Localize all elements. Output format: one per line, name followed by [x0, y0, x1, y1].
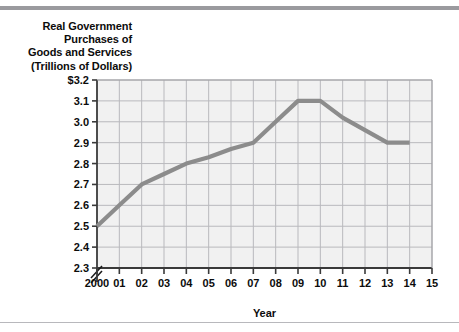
plot-area [97, 80, 432, 268]
y-axis-tick-label: 3.0 [33, 116, 89, 128]
y-axis-tick-label: $3.2 [33, 74, 89, 86]
bottom-divider [0, 322, 459, 323]
y-axis-tick-label: 2.4 [33, 241, 89, 253]
x-axis-title: Year [97, 307, 432, 319]
line-chart: $3.23.13.02.92.82.72.62.52.42.3 20000102… [0, 0, 459, 332]
y-axis-tick-label: 2.3 [33, 262, 89, 274]
y-axis-tick-label: 3.1 [33, 95, 89, 107]
x-axis-tick-label: 15 [412, 277, 452, 289]
y-axis-tick-label: 2.9 [33, 137, 89, 149]
y-axis-tick-label: 2.6 [33, 199, 89, 211]
y-axis-tick-label: 2.5 [33, 220, 89, 232]
y-axis-tick-label: 2.8 [33, 158, 89, 170]
y-axis-tick-label: 2.7 [33, 178, 89, 190]
